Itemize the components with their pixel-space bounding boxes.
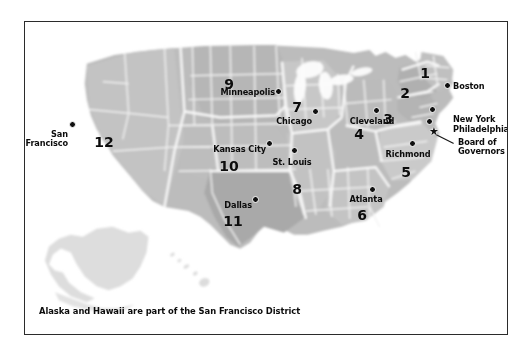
federal-reserve-districts-map: BostonNew YorkPhiladelphiaClevelandRichm… bbox=[0, 0, 531, 348]
board-of-governors-label: Board of Governors bbox=[458, 138, 505, 157]
map-frame: BostonNew YorkPhiladelphiaClevelandRichm… bbox=[24, 21, 508, 335]
board-of-governors-star-icon: ★ bbox=[429, 126, 439, 137]
map-caption: Alaska and Hawaii are part of the San Fr… bbox=[39, 306, 300, 316]
map-geography bbox=[25, 22, 507, 334]
